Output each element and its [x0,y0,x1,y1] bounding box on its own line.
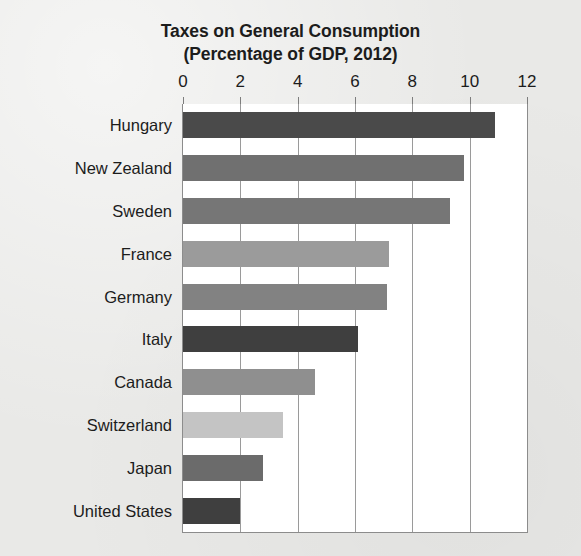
bar [183,284,387,310]
bar [183,112,495,138]
plot-area: 024681012 [182,104,528,533]
x-tick-mark-4 [298,97,299,104]
bar [183,198,450,224]
x-tick-mark-12 [527,97,528,104]
category-label: Japan [0,458,172,478]
chart-title: Taxes on General Consumption [0,20,581,43]
x-tick-label-12: 12 [518,72,537,92]
bar [183,155,464,181]
bar [183,369,315,395]
category-label: United States [0,501,172,521]
x-tick-label-8: 8 [408,72,417,92]
bar [183,498,240,524]
gridline-10 [470,104,471,532]
category-label: New Zealand [0,158,172,178]
x-tick-mark-10 [470,97,471,104]
x-tick-mark-8 [412,97,413,104]
category-label: Canada [0,372,172,392]
category-label: Sweden [0,201,172,221]
x-tick-mark-2 [240,97,241,104]
x-tick-label-2: 2 [236,72,245,92]
category-label: France [0,244,172,264]
bar [183,455,263,481]
x-tick-label-10: 10 [460,72,479,92]
bar [183,326,358,352]
chart-subtitle: (Percentage of GDP, 2012) [0,43,581,66]
y-axis-category-labels: HungaryNew ZealandSwedenFranceGermanyIta… [0,104,172,532]
chart-page: Taxes on General Consumption (Percentage… [0,0,581,556]
category-label: Hungary [0,115,172,135]
x-tick-mark-6 [355,97,356,104]
chart-title-block: Taxes on General Consumption (Percentage… [0,20,581,66]
bar [183,412,283,438]
category-label: Italy [0,329,172,349]
x-tick-mark-0 [183,97,184,104]
category-label: Germany [0,287,172,307]
category-label: Switzerland [0,415,172,435]
x-tick-label-4: 4 [293,72,302,92]
x-tick-label-0: 0 [178,72,187,92]
x-tick-label-6: 6 [350,72,359,92]
bar [183,241,389,267]
